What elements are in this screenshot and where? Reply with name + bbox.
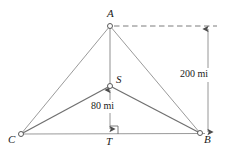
vertex-point-A xyxy=(108,24,113,29)
segment-AB xyxy=(110,26,200,133)
vertex-label-T: T xyxy=(106,136,112,147)
segment-AC xyxy=(21,26,110,134)
geometry-figure: A S C B T 200 mi 80 mi xyxy=(0,0,232,154)
vertex-label-C: C xyxy=(8,134,15,145)
segment-SB xyxy=(110,86,200,133)
dimension-label-200mi: 200 mi xyxy=(180,69,208,79)
vertex-point-C xyxy=(19,132,24,137)
vertex-label-S: S xyxy=(116,74,122,85)
vertex-label-B: B xyxy=(204,134,211,145)
right-angle-mark xyxy=(110,126,118,134)
segment-CB-baseline xyxy=(21,134,205,135)
vertex-point-B xyxy=(198,131,203,136)
vertex-point-S xyxy=(108,84,113,89)
vertex-label-A: A xyxy=(107,8,114,19)
dimension-label-80mi: 80 mi xyxy=(91,101,114,111)
